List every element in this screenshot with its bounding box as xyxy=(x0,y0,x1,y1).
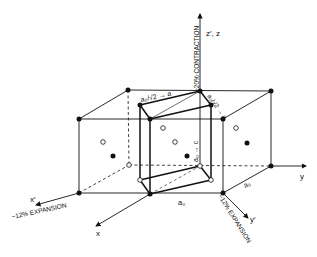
contraction-label: ~20% CONTRACTION xyxy=(193,25,200,92)
edge-c-label: a₀ → c xyxy=(192,140,199,162)
z-axis-label: z′, z xyxy=(206,29,220,38)
x-axis-label: x xyxy=(96,229,100,238)
x-axis xyxy=(96,194,150,226)
axes xyxy=(36,14,306,226)
edge-a0-right-label: a₀ xyxy=(242,179,251,188)
y-axis-label: y xyxy=(300,172,304,181)
expansion-y-label: ~12% EXPANSION xyxy=(217,193,253,245)
x-prime-axis-label: x′ xyxy=(30,195,36,204)
lattice-diagram: z′, z y x x′ y′ ~20% CONTRACTION ~12% EX… xyxy=(0,0,317,257)
labels: z′, z y x x′ y′ ~20% CONTRACTION ~12% EX… xyxy=(11,25,304,244)
edge-a0-bottom-label: a₀ xyxy=(178,198,185,207)
y-prime-axis-label: y′ xyxy=(250,215,256,224)
